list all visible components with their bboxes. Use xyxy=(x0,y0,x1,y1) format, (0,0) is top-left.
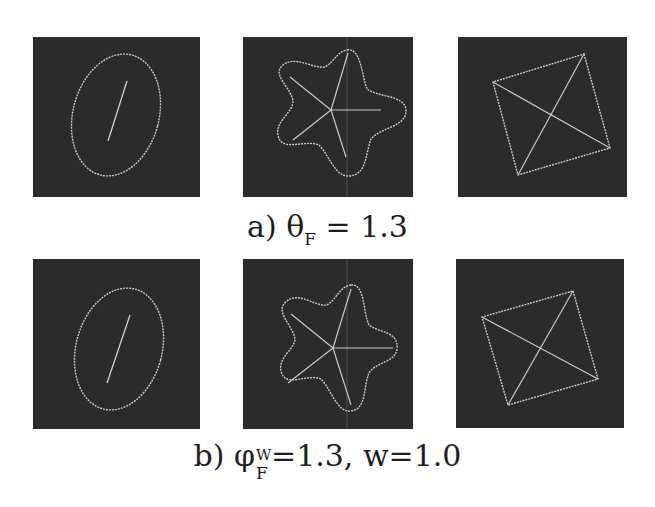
caption-value: = 1.3 xyxy=(316,209,408,244)
star-shape-icon xyxy=(243,259,413,429)
caption-value: =1.3, w=1.0 xyxy=(271,438,461,473)
row-a-ellipse-panel xyxy=(33,37,200,197)
row-b-ellipse-panel xyxy=(33,259,200,429)
row-a-star-panel xyxy=(243,37,413,197)
caption-scripts: WF xyxy=(255,443,271,473)
row-b-square-panel xyxy=(456,259,624,428)
square-shape-icon xyxy=(456,259,624,428)
square-shape-icon xyxy=(458,37,627,197)
ellipse-shape-icon xyxy=(33,37,200,197)
caption-subscript: F xyxy=(256,455,268,491)
row-b-caption: b) φWF=1.3, w=1.0 xyxy=(0,438,655,474)
caption-prefix: a) xyxy=(247,209,286,244)
ellipse-shape-icon xyxy=(33,259,200,429)
caption-prefix: b) xyxy=(194,438,234,473)
row-a-square-panel xyxy=(458,37,627,197)
row-a-caption: a) θF = 1.3 xyxy=(0,209,655,257)
star-shape-icon xyxy=(243,37,413,197)
caption-subscript: F xyxy=(304,229,316,249)
phi-symbol: φ xyxy=(234,438,255,473)
row-b-star-panel xyxy=(243,259,413,429)
theta-symbol: θ xyxy=(286,209,304,244)
